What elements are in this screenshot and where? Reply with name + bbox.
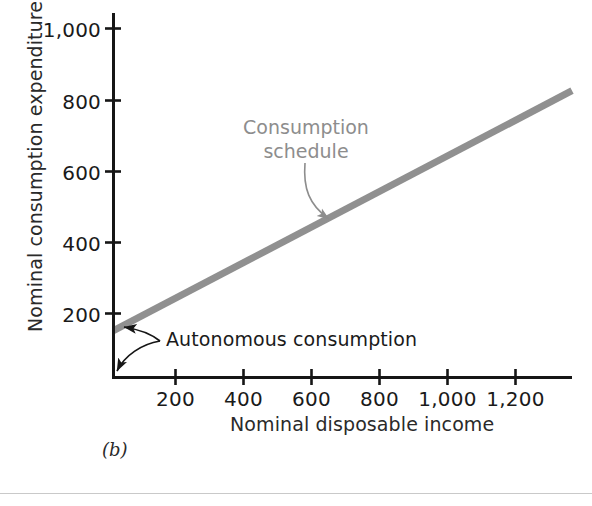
- autonomous-consumption-annotation: Autonomous consumption: [166, 330, 417, 349]
- x-tick-label-1200: 1,200: [475, 389, 556, 409]
- x-axis-title: Nominal disposable income: [230, 415, 494, 434]
- consumption-schedule-annotation-line2: schedule: [233, 140, 379, 164]
- autonomous-leader-arrow-upper: [124, 327, 160, 341]
- consumption-schedule-annotation-line1: Consumption: [233, 116, 379, 140]
- schedule-leader-arrow: [305, 163, 329, 219]
- y-axis-title: Nominal consumption expenditure: [24, 1, 46, 332]
- bottom-divider: [0, 493, 592, 494]
- autonomous-leader-arrow-lower: [117, 341, 160, 371]
- consumption-schedule-annotation: Consumption schedule: [233, 116, 379, 164]
- panel-label: (b): [102, 441, 128, 459]
- consumption-schedule-figure: 1,000 800 600 400 200 200 400 600 800 1,…: [0, 0, 592, 506]
